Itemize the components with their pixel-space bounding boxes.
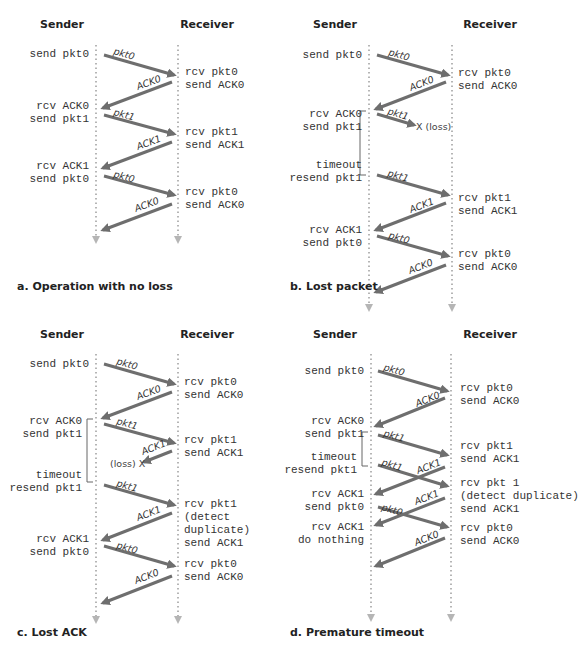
message-arrow-pkt1 [104, 485, 174, 505]
sender-event-text: rcv ACK0 [29, 415, 82, 427]
arrow-label: ACK0 [134, 383, 163, 403]
panel-d: SenderReceiverpkt0ACK0pkt1pkt1ACK1pkt0AC… [284, 328, 578, 639]
receiver-event-text: rcv pkt0 [185, 186, 238, 198]
receiver-event-text: rcv pkt1 [185, 126, 238, 138]
sender-event-text: send pkt1 [305, 428, 365, 440]
panels-group: SenderReceiverpkt0ACK0pkt1ACK1pkt0ACK0se… [9, 18, 578, 639]
panel-caption: b. Lost packet [290, 280, 378, 293]
sender-event-text: send pkt1 [23, 428, 83, 440]
receiver-event-text: rcv pkt0 [460, 382, 513, 394]
sender-event-text: send pkt0 [30, 546, 89, 558]
receiver-event-text: rcv pkt 1 [460, 477, 520, 489]
receiver-event-text: send ACK0 [460, 535, 519, 547]
sender-event-text: send pkt0 [305, 365, 364, 377]
message-arrow-pkt0 [378, 371, 447, 391]
sender-event-text: rcv ACK1 [36, 160, 89, 172]
sender-event-text: rcv ACK0 [36, 100, 89, 112]
receiver-event-text: rcv pkt0 [460, 522, 513, 534]
message-arrow-pkt0 [377, 55, 448, 75]
sender-event-text: resend pkt1 [289, 172, 362, 184]
message-arrow-pkt0 [104, 55, 174, 75]
sender-event-text: rcv ACK1 [36, 533, 89, 545]
receiver-event-text: (detect duplicate) [460, 490, 579, 502]
receiver-event-text: send ACK1 [460, 453, 520, 465]
receiver-event-text: rcv pkt0 [184, 558, 237, 570]
receiver-event-text: send ACK1 [460, 503, 520, 515]
arrow-label: ACK1 [134, 503, 163, 523]
sender-event-text: timeout [311, 451, 357, 463]
sender-event-text: rcv ACK1 [311, 488, 364, 500]
receiver-event-text: send ACK1 [185, 139, 245, 151]
receiver-event-text: send ACK0 [185, 199, 244, 211]
sender-event-text: send pkt0 [30, 358, 89, 370]
receiver-event-text: rcv pkt1 [458, 192, 511, 204]
message-arrow-ack0 [376, 398, 445, 426]
sender-event-text: rcv ACK0 [309, 108, 362, 120]
sender-event-text: send pkt0 [303, 237, 362, 249]
arrow-label: pkt1 [381, 427, 405, 444]
timeout-bracket [87, 419, 93, 482]
message-arrow-pkt1 [104, 115, 174, 134]
sender-event-text: rcv ACK0 [311, 415, 364, 427]
receiver-event-text: rcv pkt1 [184, 434, 237, 446]
receiver-header: Receiver [180, 328, 234, 341]
sender-header: Sender [40, 328, 85, 341]
receiver-event-text: rcv pkt0 [184, 376, 237, 388]
arrow-label: ACK0 [406, 256, 435, 276]
receiver-event-text: send ACK0 [184, 571, 243, 583]
sender-event-text: do nothing [298, 534, 364, 546]
sender-header: Sender [40, 18, 85, 31]
panel-caption: a. Operation with no loss [17, 280, 173, 293]
receiver-header: Receiver [463, 328, 517, 341]
panel-a: SenderReceiverpkt0ACK0pkt1ACK1pkt0ACK0se… [17, 18, 245, 293]
loss-marker: (loss) X [110, 458, 146, 469]
receiver-event-text: send ACK0 [458, 261, 517, 273]
sender-event-text: send pkt0 [303, 49, 362, 61]
receiver-header: Receiver [463, 18, 517, 31]
sender-header: Sender [313, 328, 358, 341]
message-arrow-ack0 [376, 538, 445, 566]
receiver-event-text: send ACK0 [460, 395, 519, 407]
receiver-event-text: send ACK0 [185, 79, 244, 91]
receiver-event-text: rcv pkt0 [185, 66, 238, 78]
sender-event-text: timeout [316, 159, 362, 171]
receiver-event-text: send ACK1 [184, 537, 244, 549]
panel-caption: d. Premature timeout [290, 626, 424, 639]
rdt-timeline-diagram: SenderReceiverpkt0ACK0pkt1ACK1pkt0ACK0se… [0, 0, 580, 647]
sender-event-text: send pkt1 [303, 121, 363, 133]
sender-header: Sender [313, 18, 358, 31]
sender-event-text: timeout [36, 469, 82, 481]
receiver-header: Receiver [180, 18, 234, 31]
receiver-event-text: rcv pkt0 [458, 67, 511, 79]
receiver-event-text: rcv pkt1 [184, 498, 237, 510]
sender-event-text: send pkt0 [305, 501, 364, 513]
arrow-label: ACK1 [134, 133, 163, 153]
receiver-event-text: send ACK1 [458, 205, 518, 217]
panel-c: SenderReceiverpkt0ACK0pkt1ACK1pkt1ACK1pk… [9, 328, 250, 639]
receiver-event-text: rcv pkt0 [458, 248, 511, 260]
loss-marker: X (loss) [416, 121, 451, 132]
sender-event-text: send pkt0 [30, 173, 89, 185]
receiver-event-text: send ACK0 [458, 80, 517, 92]
arrow-label: ACK0 [134, 73, 163, 93]
receiver-event-text: send ACK1 [184, 447, 244, 459]
sender-event-text: resend pkt1 [9, 482, 82, 494]
message-arrow-pkt0 [104, 546, 174, 566]
panel-caption: c. Lost ACK [17, 626, 87, 639]
receiver-event-text: (detect [184, 511, 230, 523]
receiver-event-text: duplicate) [184, 524, 250, 536]
panel-b: SenderReceiverpkt0ACK0pkt1pkt1ACK1pkt0AC… [289, 18, 517, 308]
sender-event-text: send pkt1 [30, 113, 90, 125]
sender-event-text: send pkt0 [30, 48, 89, 60]
sender-event-text: rcv ACK1 [311, 521, 364, 533]
sender-event-text: resend pkt1 [284, 464, 357, 476]
sender-event-text: rcv ACK1 [309, 224, 362, 236]
receiver-event-text: send ACK0 [184, 389, 243, 401]
receiver-event-text: rcv pkt1 [460, 440, 513, 452]
message-arrow-pkt0 [104, 364, 174, 384]
